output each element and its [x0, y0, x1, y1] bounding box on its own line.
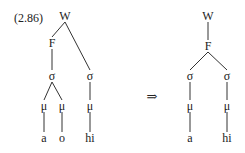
before-node-m3: μ: [87, 99, 93, 113]
after-node-m1: μ: [187, 99, 193, 113]
before-tree: WFσσμμμaohi: [41, 9, 96, 145]
after-node-m2: μ: [224, 99, 230, 113]
after-node-s2: σ: [224, 69, 231, 83]
before-node-W: W: [59, 9, 71, 23]
after-edge-F-s2: [208, 52, 227, 70]
before-edge-W-s2: [65, 22, 90, 70]
before-node-m2: μ: [59, 99, 65, 113]
after-node-t1: a: [187, 131, 193, 145]
before-edge-W-F: [52, 22, 65, 37]
before-node-m1: μ: [41, 99, 47, 113]
derivation-arrow: ⇒: [147, 89, 158, 104]
after-node-F: F: [205, 39, 212, 53]
after-edge-F-s1: [190, 52, 208, 70]
before-node-t2: o: [59, 131, 65, 145]
before-edge-s1-m2: [52, 82, 62, 100]
after-node-s1: σ: [187, 69, 194, 83]
after-node-W: W: [202, 9, 214, 23]
before-node-s2: σ: [87, 69, 94, 83]
before-node-t3: hi: [85, 131, 95, 145]
after-tree: WFσσμμahi: [187, 9, 233, 145]
before-node-F: F: [49, 36, 56, 50]
after-node-t2: hi: [222, 131, 232, 145]
tree-diagram: (2.86) WFσσμμμaohi ⇒ WFσσμμahi: [0, 0, 245, 153]
before-node-s1: σ: [49, 69, 56, 83]
before-node-t1: a: [41, 131, 47, 145]
example-label: (2.86): [14, 11, 43, 25]
before-edge-s1-m1: [44, 82, 52, 100]
